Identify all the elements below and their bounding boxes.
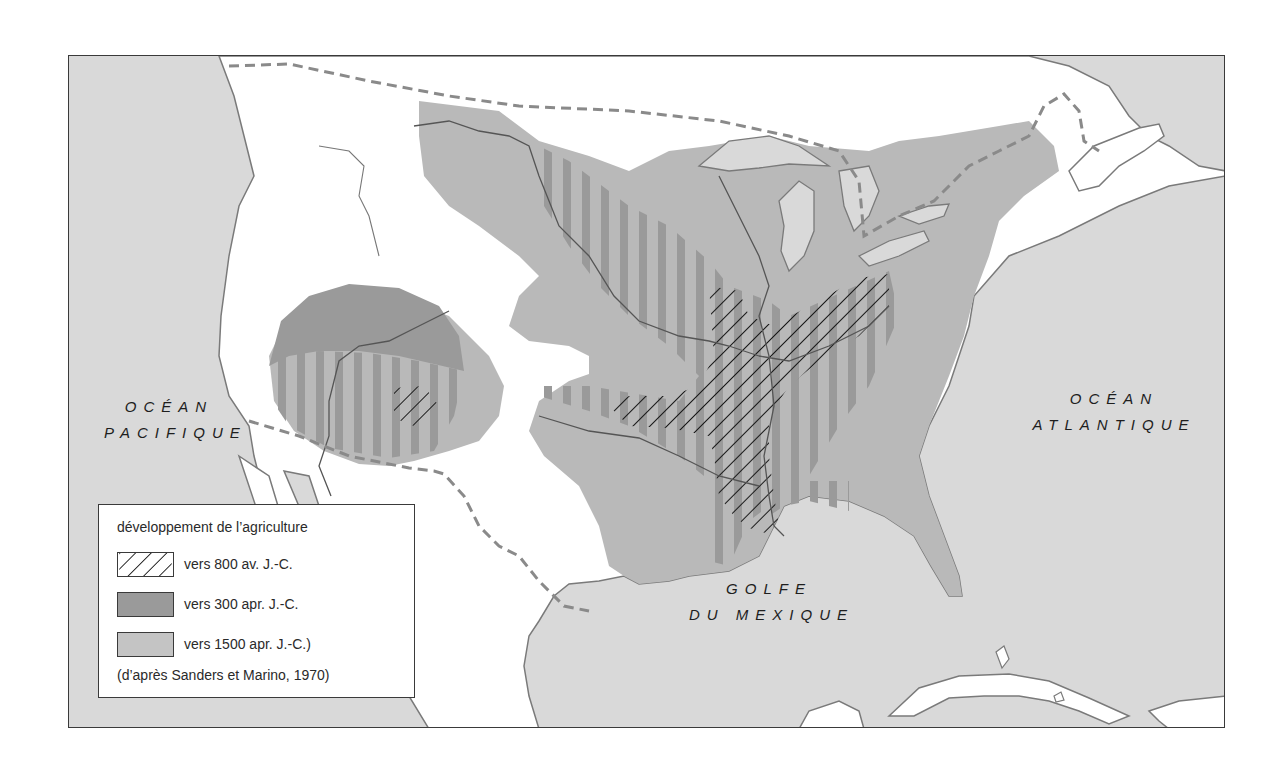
legend-title: développement de l’agriculture [117,519,308,535]
legend-label-1500ad: vers 1500 apr. J.-C.) [184,636,311,652]
light-grey-swatch-icon [117,632,174,657]
legend-item-1500ad: vers 1500 apr. J.-C.) [117,631,311,657]
land-hispaniola [1149,696,1225,728]
legend-source: (d’après Sanders et Marino, 1970) [117,667,329,683]
legend: développement de l’agriculture vers 800 … [98,504,415,698]
land-cuba [889,674,1129,724]
label-pacific-ocean: OCÉAN PACIFIQUE [104,394,234,446]
label-atlantic-ocean: OCÉAN ATLANTIQUE [1019,386,1209,438]
legend-item-300ad: vers 300 apr. J.-C. [117,591,298,617]
legend-label-300ad: vers 300 apr. J.-C. [184,596,298,612]
label-atlantic-line1: OCÉAN [1019,386,1209,412]
label-atlantic-line2: ATLANTIQUE [1019,412,1209,438]
dark-grey-swatch-icon [117,592,174,617]
legend-label-800bc: vers 800 av. J.-C. [184,556,293,572]
label-gulf-line1: GOLFE [689,576,849,602]
land-yucatan [799,701,864,728]
legend-item-800bc: vers 800 av. J.-C. [117,551,293,577]
label-gulf-line2: DU MEXIQUE [689,602,849,628]
label-pacific-line2: PACIFIQUE [104,420,234,446]
label-pacific-line1: OCÉAN [104,394,234,420]
label-gulf-of-mexico: GOLFE DU MEXIQUE [689,576,849,628]
map-frame: OCÉAN PACIFIQUE OCÉAN ATLANTIQUE GOLFE D… [68,55,1225,728]
hatch-swatch-icon [117,552,174,577]
